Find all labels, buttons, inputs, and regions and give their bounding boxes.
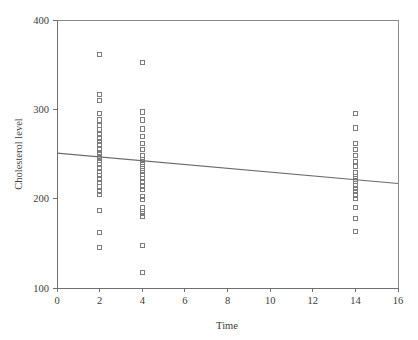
data-point-marker <box>98 192 102 196</box>
x-tick-label: 2 <box>97 295 102 306</box>
y-tick-label: 400 <box>33 15 49 26</box>
data-point-marker <box>353 159 357 163</box>
data-point-marker <box>98 128 102 132</box>
data-point-marker <box>353 112 357 116</box>
data-point-marker <box>353 216 357 220</box>
data-point-marker <box>353 230 357 234</box>
x-tick-label: 14 <box>350 295 361 306</box>
y-tick-label: 300 <box>33 104 49 115</box>
x-tick-label: 4 <box>140 295 146 306</box>
data-point-marker <box>353 147 357 151</box>
data-point-marker <box>140 243 144 247</box>
data-point-marker <box>140 214 144 218</box>
data-point-marker <box>140 134 144 138</box>
data-point-marker <box>140 110 144 114</box>
data-point-marker <box>98 98 102 102</box>
regression-line <box>57 153 398 183</box>
x-tick-group: 0246810121416 <box>54 288 403 306</box>
data-point-marker <box>353 206 357 210</box>
data-point-marker <box>98 53 102 57</box>
data-point-marker <box>140 197 144 201</box>
data-point-marker <box>98 246 102 250</box>
plot-canvas: 100200300400 0246810121416 Time Choleste… <box>0 0 418 340</box>
data-point-marker <box>98 118 102 122</box>
data-point-marker <box>140 195 144 199</box>
x-tick-label: 12 <box>308 295 319 306</box>
data-point-marker <box>98 123 102 127</box>
data-point-marker <box>98 189 102 193</box>
data-point-marker <box>140 141 144 145</box>
data-point-marker <box>98 112 102 116</box>
data-point-marker <box>98 92 102 96</box>
data-point-marker <box>140 271 144 275</box>
regression-line-group <box>57 153 398 183</box>
x-tick-label: 16 <box>393 295 404 306</box>
y-tick-label: 200 <box>33 193 49 204</box>
data-point-marker <box>98 231 102 235</box>
data-point-marker <box>140 61 144 65</box>
plot-frame <box>57 20 398 288</box>
y-tick-label: 100 <box>33 283 49 294</box>
data-point-marker <box>140 118 144 122</box>
x-tick-label: 6 <box>182 295 187 306</box>
data-point-marker <box>140 212 144 216</box>
data-point-marker <box>353 154 357 158</box>
data-point-marker <box>353 164 357 168</box>
x-tick-label: 10 <box>265 295 276 306</box>
x-tick-label: 0 <box>54 295 59 306</box>
y-axis-title: Cholesterol level <box>13 118 24 190</box>
data-point-marker <box>353 141 357 145</box>
y-tick-group: 100200300400 <box>33 15 57 294</box>
data-point-marker <box>353 126 357 130</box>
data-point-marker <box>140 127 144 131</box>
scatter-plot-figure: 100200300400 0246810121416 Time Choleste… <box>0 0 418 340</box>
x-tick-label: 8 <box>225 295 230 306</box>
data-point-group <box>98 53 358 275</box>
x-axis-title: Time <box>216 320 238 331</box>
data-point-marker <box>98 208 102 212</box>
data-point-marker <box>140 147 144 151</box>
